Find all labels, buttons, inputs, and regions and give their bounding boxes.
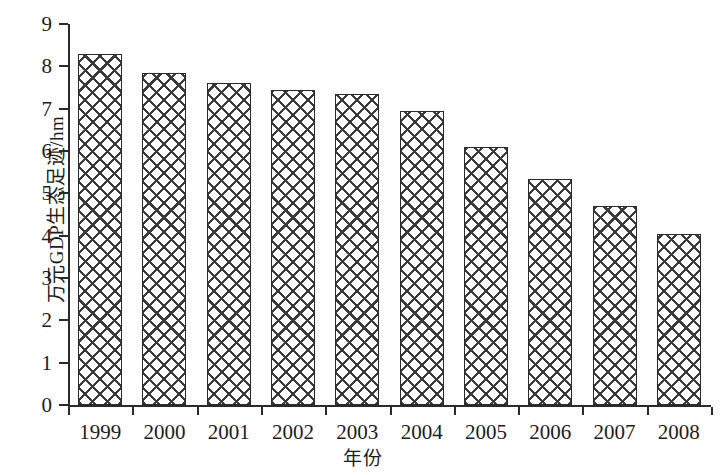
bar [593, 206, 637, 405]
x-tick-label: 2001 [208, 422, 250, 443]
bar [335, 94, 379, 405]
y-tick-label: 9 [42, 14, 53, 35]
y-tick: 7 [59, 108, 68, 110]
bar [464, 147, 508, 405]
x-tick [197, 407, 199, 415]
x-tick-label: 1999 [79, 422, 121, 443]
x-tick-label: 2008 [658, 422, 700, 443]
y-tick-label: 4 [42, 225, 53, 246]
y-tick-label: 3 [42, 268, 53, 289]
bar [207, 83, 251, 405]
x-tick [582, 407, 584, 415]
y-tick-label: 6 [42, 141, 53, 162]
y-tick: 9 [59, 23, 68, 25]
bar [142, 73, 186, 405]
y-tick-label: 0 [42, 395, 53, 416]
x-tick [647, 407, 649, 415]
y-axis-line [68, 24, 70, 407]
bar [528, 179, 572, 405]
y-tick: 1 [59, 362, 68, 364]
y-tick: 5 [59, 192, 68, 194]
y-tick-label: 1 [42, 352, 53, 373]
y-tick-label: 8 [42, 56, 53, 77]
y-tick: 3 [59, 277, 68, 279]
bar-chart: 万元GDP生态足迹/hm 0123456789 1999200020012002… [0, 0, 725, 475]
x-tick [261, 407, 263, 415]
y-tick: 8 [59, 65, 68, 67]
x-tick [390, 407, 392, 415]
x-tick [68, 407, 70, 415]
bar [657, 234, 701, 405]
y-tick-label: 2 [42, 310, 53, 331]
bar [400, 111, 444, 405]
x-tick-label: 2004 [401, 422, 443, 443]
bar [271, 90, 315, 405]
x-tick-label: 2003 [336, 422, 378, 443]
bar [78, 54, 122, 405]
y-tick: 0 [59, 404, 68, 406]
y-tick-label: 7 [42, 98, 53, 119]
x-tick [711, 407, 713, 415]
y-tick: 6 [59, 150, 68, 152]
y-tick-label: 5 [42, 183, 53, 204]
x-tick-label: 2005 [465, 422, 507, 443]
y-tick: 2 [59, 319, 68, 321]
x-tick [454, 407, 456, 415]
x-tick [518, 407, 520, 415]
x-tick-label: 2007 [594, 422, 636, 443]
x-tick [325, 407, 327, 415]
x-tick [132, 407, 134, 415]
y-tick: 4 [59, 235, 68, 237]
x-axis-title: 年份 [0, 443, 725, 470]
plot-area: 0123456789 19992000200120022003200420052… [68, 24, 711, 407]
x-tick-label: 2000 [143, 422, 185, 443]
x-tick-label: 2002 [272, 422, 314, 443]
x-tick-label: 2006 [529, 422, 571, 443]
